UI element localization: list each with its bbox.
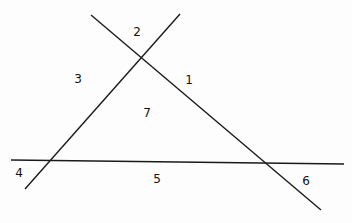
horizontal-line: [11, 160, 344, 164]
left-diagonal-line: [25, 14, 180, 189]
right-diagonal-line: [91, 15, 321, 210]
triangle-regions-diagram: 1 2 3 4 5 6 7: [0, 0, 352, 223]
region-label-7: 7: [143, 107, 151, 119]
region-label-4: 4: [15, 167, 23, 179]
region-label-3: 3: [74, 73, 82, 85]
region-label-5: 5: [153, 173, 161, 185]
region-label-1: 1: [185, 74, 193, 86]
region-label-2: 2: [133, 26, 141, 38]
region-label-6: 6: [302, 175, 310, 187]
lines-canvas: [0, 0, 352, 223]
